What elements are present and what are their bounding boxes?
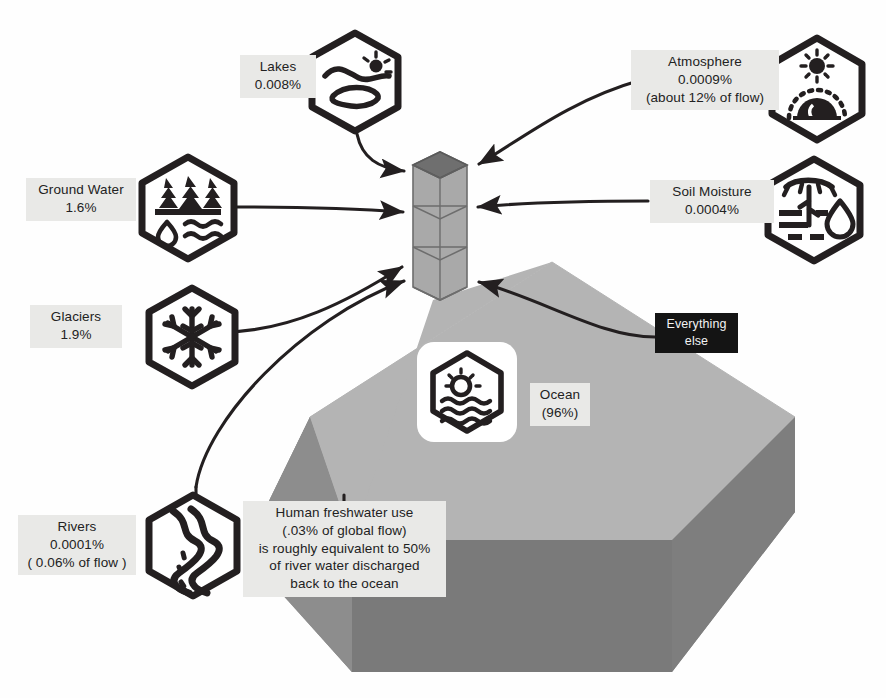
lakes-icon[interactable]	[303, 28, 407, 136]
soil-moisture-icon[interactable]	[758, 153, 870, 267]
label-everything-else: Everything else	[655, 313, 738, 353]
label-human-freshwater-use: Human freshwater use (.03% of global flo…	[243, 501, 446, 597]
arrow-groundwater	[233, 207, 403, 212]
label-atmosphere: Atmosphere 0.0009% (about 12% of flow)	[631, 50, 779, 110]
rivers-icon[interactable]	[139, 489, 247, 603]
label-lakes: Lakes 0.008%	[240, 55, 316, 98]
infographic-canvas: Lakes 0.008% Ground Water 1.6% Glaciers …	[0, 0, 886, 698]
atmosphere-icon[interactable]	[763, 33, 871, 145]
arrow-glaciers	[222, 267, 402, 332]
arrow-lakes	[357, 134, 404, 171]
label-glaciers: Glaciers 1.9%	[30, 305, 122, 348]
arrow-atmosphere	[479, 80, 641, 164]
arrow-soil	[478, 201, 648, 207]
ocean-icon[interactable]	[416, 341, 518, 443]
label-ground-water: Ground Water 1.6%	[26, 178, 136, 221]
water-column	[413, 152, 467, 300]
groundwater-icon[interactable]	[133, 152, 243, 264]
label-rivers: Rivers 0.0001% ( 0.06% of flow )	[18, 515, 136, 575]
glaciers-icon[interactable]	[140, 283, 244, 391]
label-soil-moisture: Soil Moisture 0.0004%	[650, 180, 774, 223]
label-ocean: Ocean (96%)	[530, 383, 590, 426]
